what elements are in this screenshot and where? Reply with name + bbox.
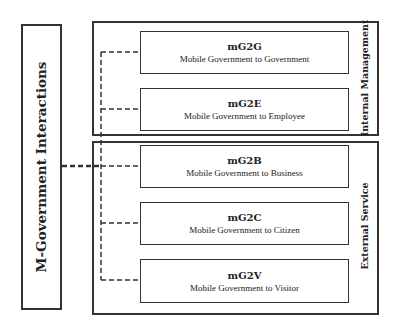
node-code: mG2E (228, 97, 262, 110)
node-code: mG2C (227, 211, 261, 224)
node-desc: Mobile Government to Government (180, 53, 310, 65)
node-mg2c: mG2C Mobile Government to Citizen (140, 202, 349, 245)
node-mg2v: mG2V Mobile Government to Visitor (140, 259, 349, 303)
node-mg2b: mG2B Mobile Government to Business (140, 145, 349, 188)
node-code: mG2V (228, 269, 262, 282)
node-code: mG2B (227, 154, 262, 167)
node-desc: Mobile Government to Visitor (190, 282, 299, 294)
node-code: mG2G (227, 40, 262, 53)
node-mg2e: mG2E Mobile Government to Employee (140, 88, 349, 131)
node-desc: Mobile Government to Business (186, 167, 303, 179)
node-mg2g: mG2G Mobile Government to Government (140, 31, 349, 74)
node-desc: Mobile Government to Employee (184, 110, 305, 122)
node-desc: Mobile Government to Citizen (189, 224, 300, 236)
